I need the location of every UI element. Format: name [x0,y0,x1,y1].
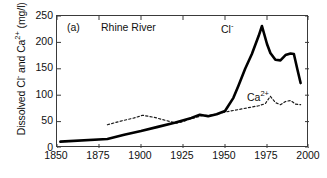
y-axis-label-sup-chloride: - [13,76,22,78]
series-line-calcium [107,96,300,125]
x-tick-label-2000: 2000 [286,150,327,161]
x-tick-label-1925: 1925 [160,150,204,161]
series-label-calcium-charge: 2+ [260,89,269,98]
y-tick-label-50: 50 [13,115,53,126]
panel-label: (a) [67,22,80,33]
series-label-chloride-charge: - [231,21,234,30]
axis-tick-marks [57,16,309,148]
x-tick-label-1900: 1900 [118,150,162,161]
x-tick-label-1950: 1950 [202,150,246,161]
x-tick-label-1850: 1850 [34,150,78,161]
plot-title: Rhine River [101,22,156,33]
x-tick-label-1875: 1875 [76,150,120,161]
y-axis-label-text: Dissolved Cl [15,78,27,135]
series-label-calcium-text: Ca [247,91,260,103]
series-label-calcium: Ca2+ [247,88,269,103]
plot-area: (a) Rhine River Cl- Ca2+ [56,15,308,147]
y-axis-label: Dissolved Cl- and Ca2+ (mg/l) [13,0,27,149]
y-tick-label-200: 200 [13,36,53,47]
y-tick-label-150: 150 [13,62,53,73]
series-label-chloride-text: Cl [221,23,231,35]
x-tick-label-1975: 1975 [244,150,288,161]
y-tick-label-100: 100 [13,89,53,100]
chart-canvas [57,16,309,148]
series-line-chloride [60,26,300,142]
y-tick-label-250: 250 [13,10,53,21]
series-label-chloride: Cl- [221,20,233,35]
chart-figure: Dissolved Cl- and Ca2+ (mg/l) 250 200 15… [0,0,327,178]
